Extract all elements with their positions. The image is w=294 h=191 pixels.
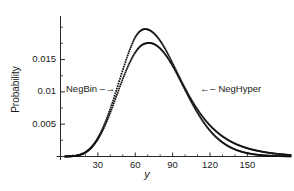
annotation-arrow-icon: –→ [100, 83, 116, 94]
x-tick-label-150: 150 [229, 159, 265, 170]
annotation-negbin: NegBin –→ [66, 83, 116, 94]
annotation-neghyper: ←– NegHyper [200, 83, 261, 94]
x-tick-label-60: 60 [117, 159, 153, 170]
x-tick-label-30: 30 [80, 159, 116, 170]
x-tick-label-90: 90 [155, 159, 191, 170]
curve-negbin [64, 42, 291, 157]
probability-distribution-chart: Probability y 0.0050.010.015 30609012015… [0, 0, 294, 191]
annotation-arrow-icon: ←– [200, 83, 216, 94]
x-tick-label-120: 120 [192, 159, 228, 170]
annotation-label: NegBin [66, 83, 97, 94]
y-tick-label-0.015: 0.015 [10, 53, 56, 64]
annotation-label: NegHyper [218, 83, 261, 94]
y-tick-label-0.005: 0.005 [10, 118, 56, 129]
y-tick-label-0.01: 0.01 [10, 85, 56, 96]
